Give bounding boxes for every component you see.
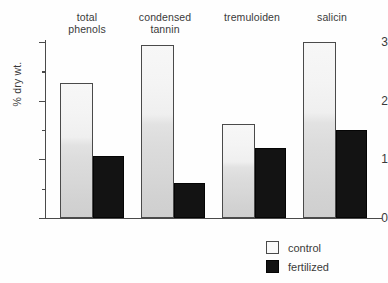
legend-swatch-control-icon	[266, 241, 279, 254]
plot-area	[46, 42, 382, 218]
y-axis-label: % dry wt.	[11, 29, 23, 139]
legend-item-fertilized: fertilized	[266, 257, 329, 276]
bar-control-condensed-tannin	[141, 45, 174, 218]
y-tick-0	[39, 218, 46, 219]
bar-control-salicin	[303, 42, 336, 218]
legend-swatch-fertilized-icon	[266, 260, 279, 273]
bar-fertilized-total-phenols	[93, 156, 124, 218]
legend-label-fertilized: fertilized	[288, 261, 329, 273]
bar-fertilized-condensed-tannin	[174, 183, 205, 218]
bar-fertilized-salicin	[336, 130, 367, 218]
bar-control-total-phenols	[60, 83, 93, 218]
category-label-line1: salicin	[277, 12, 387, 24]
chart-legend: control fertilized	[266, 238, 329, 276]
category-label-salicin: salicin	[277, 12, 387, 24]
legend-label-control: control	[288, 242, 321, 254]
y-tick-1	[39, 159, 46, 160]
bar-fertilized-tremuloiden	[255, 148, 286, 218]
y-tick-3	[39, 42, 46, 43]
y-tick-2	[39, 101, 46, 102]
bar-control-tremuloiden	[222, 124, 255, 218]
chart-figure: total phenols condensed tannin tremuloid…	[0, 0, 388, 283]
category-label-line2: tannin	[110, 24, 220, 36]
legend-item-control: control	[266, 238, 329, 257]
